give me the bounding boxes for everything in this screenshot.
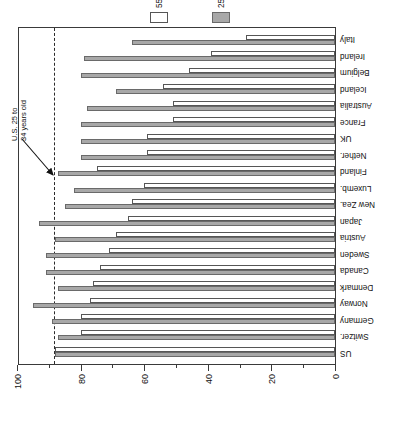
category-label-text: Nether. [340,151,366,159]
bar-group [19,229,335,245]
bar-groups [19,28,335,364]
bar [52,319,335,324]
legend-swatch [150,12,168,23]
category-label: New Zea. [337,196,399,213]
bar [189,68,335,73]
category-label: UK [337,130,399,147]
category-label: US [337,345,399,362]
bar [81,122,335,127]
bar-group [19,147,335,163]
category-label: Canada [337,262,399,279]
category-label-text: Finland [340,167,367,175]
legend-swatch [212,12,230,23]
bar-group [19,327,335,343]
bar-group [19,98,335,114]
bar-group [19,278,335,294]
bar [132,199,336,204]
bar [128,216,335,221]
bar-group [19,130,335,146]
bar-group [19,212,335,228]
category-label: Iceland [337,81,399,98]
bar-group [19,344,335,360]
bar-group [19,81,335,97]
category-label-text: Luxemb. [340,184,371,192]
category-label: Belgium [337,64,399,81]
bar-group [19,163,335,179]
category-label-text: Iceland [340,85,366,93]
bar [90,298,335,303]
bar [211,51,335,56]
bar [81,155,335,160]
bar-group [19,262,335,278]
category-label-text: Germany [340,316,374,324]
bar [132,40,336,45]
category-label-text: Sweden [340,250,370,258]
category-label: Germany [337,312,399,329]
category-label-text: Canada [340,266,369,274]
bar [97,166,336,171]
bar-group [19,32,335,48]
bar [147,134,335,139]
category-label: Sweden [337,246,399,263]
annotation-line-2: 34 years old [19,21,28,141]
category-label: Switzer. [337,328,399,345]
axis-tick-major [208,365,209,371]
category-label: Luxemb. [337,180,399,197]
bar-group [19,65,335,81]
bar [246,35,335,40]
axis-tick-label: 40 [204,374,213,384]
bar-group [19,196,335,212]
bar [144,183,335,188]
category-label: Australia [337,97,399,114]
bar [81,73,335,78]
bar [58,286,335,291]
category-label-text: Ireland [340,52,365,60]
category-label-text: France [340,118,365,126]
category-label-text: Australia [340,101,372,109]
axis-tick-major [271,365,272,371]
bar-group [19,48,335,64]
category-label: Austria [337,229,399,246]
axis-tick-major [144,365,145,371]
axis-tick-label: 100 [14,374,23,389]
bar [100,265,335,270]
category-label-text: UK [340,134,351,142]
legend-item: 55 to 64 years [150,0,168,23]
category-label: Finland [337,163,399,180]
category-label-text: Switzer. [340,332,369,340]
bar-group [19,245,335,261]
category-axis-labels: USSwitzer.GermanyNorwayDenmarkCanadaSwed… [337,27,399,365]
category-label-text: Norway [340,299,368,307]
bar [33,303,335,308]
plot-area [18,27,336,365]
bar [116,232,335,237]
axis-tick-label: 0 [332,374,341,379]
bar [39,221,335,226]
legend-item: 25 to 34 years [212,0,230,23]
bar [109,248,335,253]
axis-tick-major [17,365,18,371]
category-label-text: Austria [340,233,365,241]
bar [147,150,335,155]
bar [81,330,335,335]
bar [173,117,335,122]
rotated-canvas: 020406080100 Percentage of Age Group U.S… [0,0,399,427]
category-label: Ireland [337,48,399,65]
category-label: France [337,114,399,131]
bar [81,314,335,319]
bar-group [19,114,335,130]
axis-tick-major [81,365,82,371]
bar [55,352,335,357]
axis-tick-minor [112,365,113,369]
bar [173,101,335,106]
bar [58,171,335,176]
legend-label: 55 to 64 years [155,0,164,8]
bar [65,204,335,209]
category-label: Nether. [337,147,399,164]
bar [163,84,335,89]
category-label-text: Japan [340,217,362,225]
legend-label: 25 to 34 years [217,0,226,8]
bar [81,139,335,144]
axis-tick-minor [49,365,50,369]
axis-tick-minor [240,365,241,369]
